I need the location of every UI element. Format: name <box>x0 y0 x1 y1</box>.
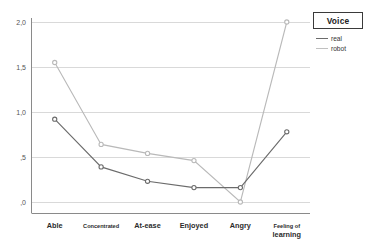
y-tick-label: ,5 <box>20 154 26 161</box>
legend-title: Voice <box>327 16 350 26</box>
data-point-robot[interactable] <box>53 60 57 64</box>
data-point-real[interactable] <box>192 186 196 190</box>
y-tick-label: 2,0 <box>16 19 26 26</box>
legend-entries: real robot <box>316 34 368 54</box>
legend-title-box: Voice <box>313 12 363 29</box>
data-point-robot[interactable] <box>238 200 242 204</box>
data-point-real[interactable] <box>145 179 149 183</box>
data-point-robot[interactable] <box>192 159 196 163</box>
legend-label-real: real <box>331 35 342 42</box>
legend-swatch-real <box>316 38 328 39</box>
legend-item-real[interactable]: real <box>316 34 368 43</box>
series-line-real <box>55 119 287 187</box>
x-category-label: learning <box>273 230 301 239</box>
x-category-label: Able <box>47 221 63 230</box>
data-point-real[interactable] <box>53 117 57 121</box>
y-tick-label: 1,5 <box>16 64 26 71</box>
data-point-real[interactable] <box>99 165 103 169</box>
x-category-label: Feeling of <box>274 223 301 229</box>
data-point-robot[interactable] <box>145 151 149 155</box>
y-tick-label: 1,0 <box>16 109 26 116</box>
x-category-label: At-ease <box>134 221 160 230</box>
legend-label-robot: robot <box>331 45 346 52</box>
x-category-label: Enjoyed <box>180 221 208 230</box>
data-point-robot[interactable] <box>99 142 103 146</box>
legend-swatch-robot <box>316 48 328 49</box>
gridlines <box>32 23 311 203</box>
y-tick-labels: 2,01,51,0,5,0 <box>16 19 26 206</box>
data-point-robot[interactable] <box>285 20 289 24</box>
y-tick-label: ,0 <box>20 199 26 206</box>
data-point-real[interactable] <box>238 186 242 190</box>
line-chart: 2,01,51,0,5,0 AbleConcentratedAt-easeEnj… <box>0 0 371 252</box>
x-category-label: Angry <box>230 221 252 230</box>
x-category-labels: AbleConcentratedAt-easeEnjoyedAngryFeeli… <box>47 221 301 239</box>
x-category-label: Concentrated <box>83 223 120 229</box>
data-point-real[interactable] <box>285 130 289 134</box>
legend-item-robot[interactable]: robot <box>316 44 368 53</box>
